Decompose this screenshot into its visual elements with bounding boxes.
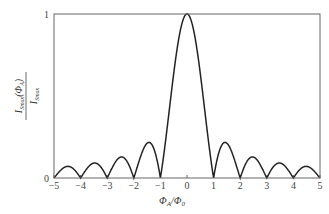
chart: −5−4−3−2−1012345 1 0 ΦA/Φ0 ISmax(ΦA) ISm… (0, 0, 329, 214)
x-tick-label: 5 (318, 180, 323, 191)
x-tick-label: 1 (211, 180, 216, 191)
svg-text:ISmax: ISmax (28, 87, 40, 105)
x-axis-ticks: −5−4−3−2−1012345 (49, 175, 323, 191)
svg-text:ISmax(ΦA): ISmax(ΦA) (13, 78, 25, 114)
y-axis-label: ISmax(ΦA) ISmax (13, 72, 40, 120)
x-axis-label: ΦA/Φ0 (159, 195, 185, 208)
x-tick-label: −3 (102, 180, 113, 191)
y-tick-0: 0 (44, 173, 49, 184)
x-tick-label: 3 (264, 180, 269, 191)
sinc-curve (54, 14, 320, 178)
x-tick-label: 2 (238, 180, 243, 191)
x-tick-label: 0 (185, 180, 190, 191)
x-tick-label: −2 (128, 180, 139, 191)
x-tick-label: 4 (291, 180, 296, 191)
y-tick-1: 1 (44, 9, 49, 20)
plot-frame (54, 14, 320, 178)
x-tick-label: −4 (75, 180, 86, 191)
x-tick-label: −5 (49, 180, 60, 191)
x-tick-label: −1 (155, 180, 166, 191)
